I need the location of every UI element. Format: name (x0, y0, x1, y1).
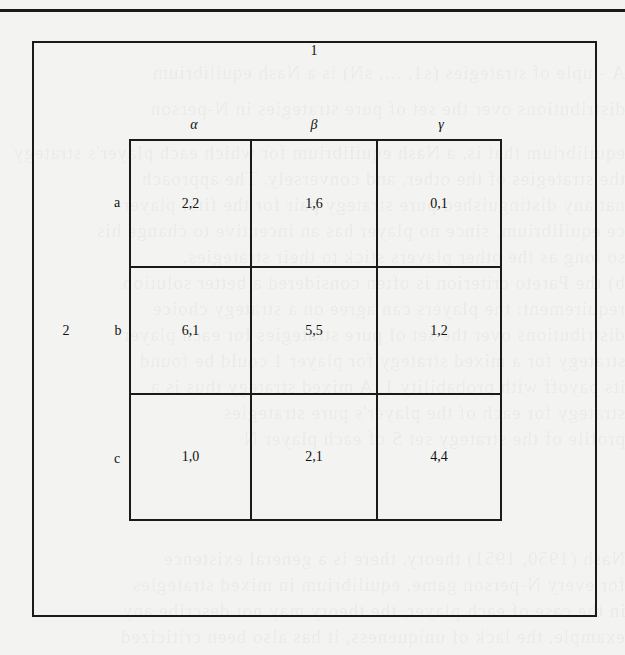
payoff-cell-b-alpha: 6,1 (131, 268, 252, 395)
payoff-cell-c-alpha: 1,0 (131, 395, 252, 519)
column-header-gamma: γ (438, 118, 444, 132)
payoff-cell-c-gamma: 4,4 (378, 395, 500, 519)
row-label-c: c (114, 452, 120, 466)
payoff-cell-a-beta: 1,6 (252, 141, 378, 268)
payoff-cell-c-beta: 2,1 (252, 395, 378, 519)
page-top-rule (0, 9, 625, 12)
row-label-a: a (114, 196, 120, 210)
payoff-cell-a-gamma: 0,1 (378, 141, 500, 268)
column-header-alpha: α (190, 118, 197, 132)
payoff-cell-a-alpha: 2,2 (131, 141, 252, 268)
column-header-beta: β (311, 118, 318, 132)
payoff-cell-b-gamma: 1,2 (378, 268, 500, 395)
payoff-cell-b-beta: 5,5 (252, 268, 378, 395)
payoff-matrix: 2,2 1,6 0,1 6,1 5,5 1,2 1,0 2,1 4,4 (129, 139, 502, 521)
bleed-line: example, the lack of uniqueness, it has … (120, 626, 625, 648)
player-1-label: 1 (311, 44, 318, 58)
row-label-b: b (115, 324, 122, 338)
player-2-label: 2 (63, 324, 70, 338)
